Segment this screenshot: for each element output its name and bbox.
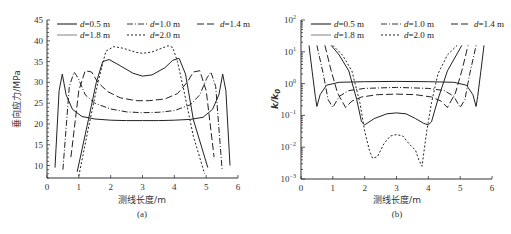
legend-label: d=0.5 m [334,19,364,29]
y-tick-label: 15 [34,140,44,150]
y-tick-label: 30 [34,77,44,87]
series-line [77,58,208,172]
chart-a: 01234561015202530354045 d=0.5 md=1.0 md=… [11,15,250,219]
x-tick-label: 0 [45,182,50,192]
y-tick-label: 40 [34,36,44,46]
y-tick-label: 25 [34,98,44,108]
x-tick-label: 4 [172,182,177,192]
y-tick-label: 101 [284,46,296,57]
legend-label: d=0.5 m [80,19,110,29]
y-tick-label: 45 [34,15,44,25]
x-tick-label: 3 [140,182,145,192]
series-line [333,45,457,166]
y-tick-label: 10−1 [281,109,296,120]
chart-b-legend: d=0.5 md=1.0 md=1.4 md=1.8 md=2.0 m [311,19,504,40]
chart-a-plot [55,46,230,176]
x-tick-label: 5 [458,183,463,193]
x-tick-label: 2 [362,183,367,193]
y-tick-label: 10 [34,161,44,171]
x-tick-label: 1 [77,182,82,192]
y-tick-label: 10−2 [281,141,296,152]
y-tick-label: 20 [34,119,44,129]
x-tick-label: 6 [236,182,241,192]
legend-label: d=1.4 m [220,19,250,29]
chart-b-x-label: 测线长度/m [373,194,421,205]
chart-a-ticks: 01234561015202530354045 [34,15,241,192]
y-tick-label: 102 [284,14,296,25]
chart-a-legend: d=0.5 md=1.0 md=1.4 md=1.8 md=2.0 m [57,19,250,40]
x-tick-label: 4 [426,183,431,193]
chart-b-y-label: k/k0 [270,89,282,109]
series-line [331,45,462,125]
x-tick-label: 1 [331,183,336,193]
chart-a-x-label: 测线长度/m [118,194,166,205]
legend-label: d=1.0 m [150,19,180,29]
chart-b: 012345610−310−210−1100101102 d=0.5 md=1.… [270,14,504,219]
y-tick-label: 100 [284,78,296,89]
legend-label: d=1.8 m [80,30,110,40]
y-tick-label: 10−3 [281,173,296,184]
series-line [325,45,468,107]
legend-label: d=2.0 m [150,30,180,40]
x-tick-label: 6 [490,183,495,193]
legend-label: d=2.0 m [404,30,434,40]
legend-label: d=1.4 m [474,19,504,29]
x-tick-label: 3 [394,183,399,193]
x-tick-label: 5 [204,182,209,192]
series-line [79,46,205,176]
chart-a-y-label: 垂向应力/MPa [11,70,22,127]
chart-b-plot [309,45,484,166]
chart-b-caption: (b) [392,209,403,219]
x-tick-label: 0 [299,183,304,193]
y-tick-label: 35 [34,57,44,67]
x-tick-label: 2 [108,182,113,192]
legend-label: d=1.8 m [334,30,364,40]
figure: 01234561015202530354045 d=0.5 md=1.0 md=… [0,0,511,234]
legend-label: d=1.0 m [404,19,434,29]
series-line [309,45,484,106]
chart-a-caption: (a) [137,209,147,219]
